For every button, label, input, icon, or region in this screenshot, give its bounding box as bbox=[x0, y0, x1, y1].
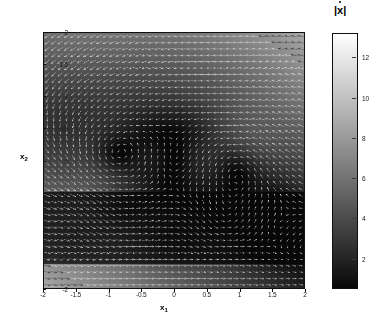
y-tick-mark bbox=[43, 32, 46, 33]
y-tick-label: -1 bbox=[28, 221, 68, 228]
x-tick-mark bbox=[141, 289, 142, 292]
colorbar-tick-label: 6 bbox=[362, 175, 365, 182]
x-tick-mark bbox=[272, 289, 273, 292]
y-tick-mark bbox=[43, 225, 46, 226]
x-tick-label: -2 bbox=[28, 291, 58, 298]
x-tick-label: 1.5 bbox=[257, 291, 287, 298]
colorbar-tick-mark bbox=[352, 138, 356, 139]
x-tick-mark bbox=[174, 289, 175, 292]
x-tick-label: -1 bbox=[94, 291, 124, 298]
vector-field-heatmap bbox=[44, 33, 304, 288]
colorbar-tick-label: 8 bbox=[362, 134, 365, 141]
y-tick-label: -0.5 bbox=[28, 189, 68, 196]
colorbar-tick-label: 10 bbox=[362, 94, 369, 101]
colorbar-tick-mark bbox=[352, 178, 356, 179]
colorbar-tick-label: 12 bbox=[362, 54, 369, 61]
y-tick-mark bbox=[43, 128, 46, 129]
xdot-icon: x bbox=[337, 4, 343, 16]
y-tick-mark bbox=[43, 96, 46, 97]
y-axis-label: x2 bbox=[20, 152, 28, 162]
y-tick-label: 1 bbox=[28, 93, 68, 100]
x-tick-mark bbox=[109, 289, 110, 292]
x-tick-label: 0 bbox=[159, 291, 189, 298]
y-tick-mark bbox=[43, 257, 46, 258]
y-tick-label: 0.5 bbox=[28, 125, 68, 132]
x-tick-label: 0.5 bbox=[192, 291, 222, 298]
x-tick-mark bbox=[76, 289, 77, 292]
colorbar-tick-label: 4 bbox=[362, 215, 365, 222]
y-tick-label: 2 bbox=[28, 29, 68, 36]
figure-canvas: 21.510.50-0.5-1-1.5-2 -2-1.5-1-0.500.511… bbox=[0, 0, 376, 324]
colorbar-title: |x| bbox=[334, 4, 346, 16]
colorbar bbox=[332, 33, 358, 289]
x-tick-label: 2 bbox=[290, 291, 320, 298]
x-tick-label: -1.5 bbox=[61, 291, 91, 298]
x-axis-label: x1 bbox=[160, 303, 168, 313]
colorbar-tick-mark bbox=[352, 218, 356, 219]
y-tick-mark bbox=[43, 161, 46, 162]
y-tick-mark bbox=[43, 193, 46, 194]
colorbar-tick-mark bbox=[352, 259, 356, 260]
colorbar-tick-mark bbox=[352, 57, 356, 58]
y-tick-label: 0 bbox=[28, 157, 68, 164]
x-tick-mark bbox=[305, 289, 306, 292]
y-tick-label: -1.5 bbox=[28, 253, 68, 260]
x-tick-label: -0.5 bbox=[126, 291, 156, 298]
phase-portrait-axes bbox=[43, 32, 305, 289]
x-tick-label: 1 bbox=[225, 291, 255, 298]
colorbar-gradient bbox=[333, 34, 357, 288]
y-tick-label: 1.5 bbox=[28, 61, 68, 68]
y-tick-mark bbox=[43, 64, 46, 65]
y-axis-label-sub: 2 bbox=[24, 156, 27, 162]
x-axis-label-sub: 1 bbox=[164, 307, 167, 313]
x-tick-mark bbox=[207, 289, 208, 292]
x-tick-mark bbox=[240, 289, 241, 292]
colorbar-tick-label: 2 bbox=[362, 255, 365, 262]
x-tick-mark bbox=[43, 289, 44, 292]
colorbar-tick-mark bbox=[352, 98, 356, 99]
colorbar-title-bar-right: | bbox=[343, 4, 346, 16]
